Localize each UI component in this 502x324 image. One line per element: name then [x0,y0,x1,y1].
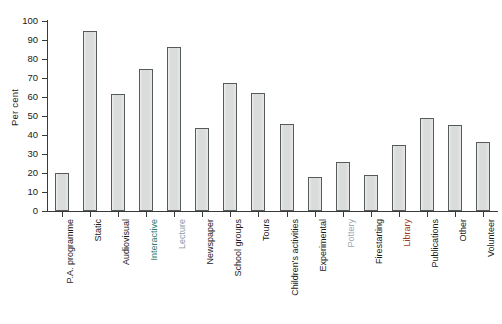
y-axis-tick [42,135,47,136]
x-axis-tick-label: Library [403,219,412,247]
bar [336,162,350,211]
x-axis-tick-label: Other [459,219,468,242]
bar [55,173,69,211]
x-axis-tick-label: Newspaper [206,219,215,265]
y-axis-tick [42,116,47,117]
x-axis-tick [371,212,372,217]
y-axis-tick-label: 20 [4,168,38,178]
x-axis-tick [230,212,231,217]
x-axis-tick-label: Lecture [178,219,187,249]
x-axis-tick-label: Audiovisual [122,219,131,265]
x-axis-tick [258,212,259,217]
bar [476,142,490,211]
bar [448,125,462,211]
x-axis-tick [202,212,203,217]
bar [392,145,406,211]
bar [111,94,125,211]
x-axis-tick-label: Children's activities [291,219,300,296]
bar [83,31,97,212]
x-axis-tick-label: Interactive [150,219,159,261]
y-axis-tick [42,97,47,98]
x-axis-tick-label: Experimental [319,219,328,272]
x-axis-tick [427,212,428,217]
y-axis-tick [42,59,47,60]
x-axis-tick-label: Tours [262,219,271,241]
y-axis-tick-label: 90 [4,35,38,45]
bar [139,69,153,211]
y-axis-tick-label: 40 [4,130,38,140]
y-axis-tick-label: 70 [4,73,38,83]
y-axis-tick-label: 80 [4,54,38,64]
y-axis-tick-label: 10 [4,187,38,197]
x-axis-tick-label: P.A. programme [66,219,75,283]
bar [420,118,434,211]
bar [280,124,294,211]
x-axis-tick-label: School groups [234,219,243,277]
bar [251,93,265,211]
x-axis-tick [343,212,344,217]
x-axis-tick [146,212,147,217]
x-axis-tick [455,212,456,217]
x-axis-tick [62,212,63,217]
x-axis-line [47,211,498,212]
x-axis-tick-label: Static [94,219,103,242]
x-axis-tick-label: Publications [431,219,440,268]
y-axis-title: Per cent [0,0,28,215]
x-axis-tick [315,212,316,217]
x-axis-tick [287,212,288,217]
y-axis-tick [42,173,47,174]
x-axis-tick [399,212,400,217]
y-axis-tick [42,154,47,155]
bar [364,175,378,211]
bar-chart: Per cent 0102030405060708090100 P.A. pro… [0,0,502,324]
x-axis-tick-label: Pottery [347,219,356,248]
x-axis-tick [483,212,484,217]
y-axis-tick-label: 100 [4,16,38,26]
x-axis-tick [118,212,119,217]
x-axis-tick [90,212,91,217]
y-axis-tick [42,78,47,79]
x-axis-tick [174,212,175,217]
y-axis-tick [42,40,47,41]
x-axis-tick-label: Firestarting [375,219,384,264]
y-axis-tick [42,211,47,212]
y-axis-tick [42,192,47,193]
bar [308,177,322,211]
x-axis-tick-label: Volunteer [487,219,496,257]
y-axis-tick-label: 30 [4,149,38,159]
y-axis-tick-label: 50 [4,111,38,121]
bar [223,83,237,211]
y-axis-line [47,20,48,212]
y-axis-tick [42,21,47,22]
bar [195,128,209,211]
y-axis-tick-label: 0 [4,206,38,216]
y-axis-tick-label: 60 [4,92,38,102]
bar [167,47,181,211]
